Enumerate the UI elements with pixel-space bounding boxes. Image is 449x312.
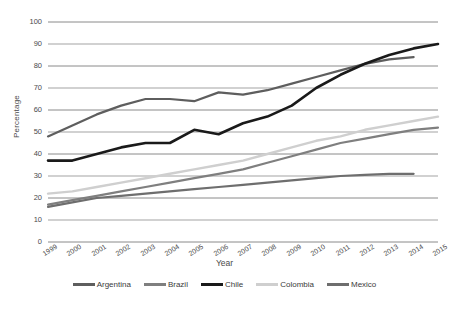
legend-label-brazil: Brazil xyxy=(168,280,188,289)
y-tick-label: 50 xyxy=(18,127,42,136)
y-tick-label: 10 xyxy=(18,215,42,224)
series-line-argentina xyxy=(48,57,414,136)
y-tick-label: 20 xyxy=(18,193,42,202)
legend-swatch-brazil xyxy=(144,283,166,286)
legend-swatch-argentina xyxy=(73,283,95,286)
legend-item-argentina[interactable]: Argentina xyxy=(73,280,131,289)
y-tick-label: 70 xyxy=(18,83,42,92)
legend-item-mexico[interactable]: Mexico xyxy=(327,280,376,289)
y-tick-label: 100 xyxy=(18,17,42,26)
legend-label-chile: Chile xyxy=(225,280,243,289)
chart-legend: ArgentinaBrazilChileColombiaMexico xyxy=(0,280,449,289)
y-tick-label: 40 xyxy=(18,149,42,158)
legend-label-argentina: Argentina xyxy=(97,280,131,289)
series-lines xyxy=(48,44,438,207)
legend-item-colombia[interactable]: Colombia xyxy=(256,280,314,289)
legend-item-brazil[interactable]: Brazil xyxy=(144,280,188,289)
series-line-brazil xyxy=(48,128,438,205)
line-chart: Percentage 0102030405060708090100 199920… xyxy=(0,0,449,312)
legend-swatch-mexico xyxy=(327,283,349,286)
y-tick-label: 60 xyxy=(18,105,42,114)
y-tick-label: 80 xyxy=(18,61,42,70)
y-tick-label: 0 xyxy=(18,237,42,246)
legend-swatch-chile xyxy=(201,283,223,286)
legend-label-colombia: Colombia xyxy=(280,280,314,289)
gridlines xyxy=(48,22,438,242)
legend-label-mexico: Mexico xyxy=(351,280,376,289)
series-line-colombia xyxy=(48,117,438,194)
y-tick-label: 30 xyxy=(18,171,42,180)
y-tick-label: 90 xyxy=(18,39,42,48)
x-axis-title: Year xyxy=(0,258,449,268)
legend-swatch-colombia xyxy=(256,283,278,286)
legend-item-chile[interactable]: Chile xyxy=(201,280,243,289)
series-line-mexico xyxy=(48,174,414,207)
